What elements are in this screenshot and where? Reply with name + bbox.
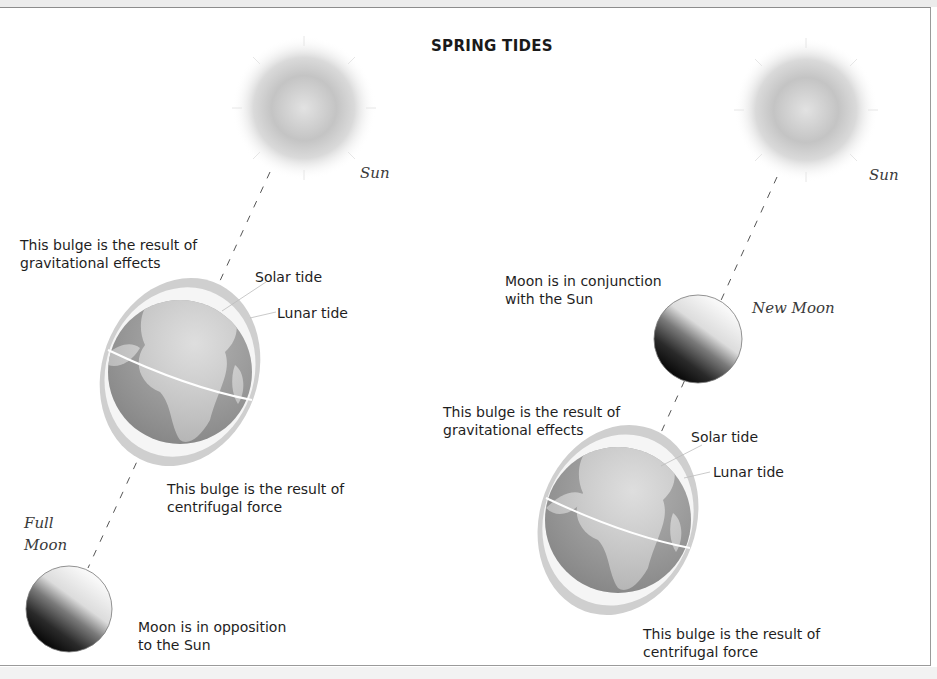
- lunar-tide-label-left: Lunar tide: [277, 304, 348, 322]
- gravitational-bulge-label-right: This bulge is the result of gravitationa…: [443, 403, 620, 439]
- moon-conjunction-label: Moon is in conjunction with the Sun: [505, 272, 662, 308]
- new-moon: [654, 295, 742, 383]
- lunar-tide-label-right: Lunar tide: [713, 463, 784, 481]
- centrifugal-bulge-label-left: This bulge is the result of centrifugal …: [167, 480, 344, 516]
- sun-label-left: Sun: [360, 162, 390, 184]
- new-moon-label: New Moon: [752, 297, 835, 319]
- sun-label-right: Sun: [869, 164, 899, 186]
- full-moon-label: Full Moon: [24, 512, 67, 556]
- centrifugal-bulge-label-right: This bulge is the result of centrifugal …: [643, 625, 820, 661]
- full-moon: [26, 566, 112, 652]
- solar-tide-label-right: Solar tide: [691, 428, 758, 446]
- moon-opposition-label: Moon is in opposition to the Sun: [138, 618, 286, 654]
- spring-tides-diagram: [0, 0, 937, 679]
- sun-left: [232, 36, 376, 180]
- sun-right: [734, 38, 878, 182]
- solar-tide-label-left: Solar tide: [255, 268, 322, 286]
- diagram-title: SPRING TIDES: [431, 37, 553, 55]
- gravitational-bulge-label-left: This bulge is the result of gravitationa…: [20, 236, 197, 272]
